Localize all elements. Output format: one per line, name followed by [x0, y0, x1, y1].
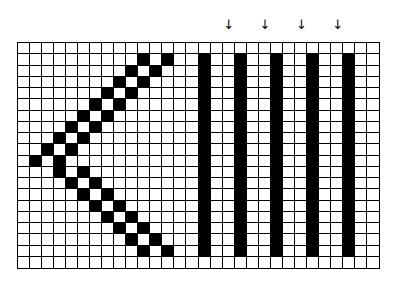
empty-cell: [90, 133, 102, 144]
filled-cell: [90, 122, 102, 133]
filled-cell: [138, 246, 150, 257]
filled-cell: [235, 122, 247, 133]
filled-cell: [66, 144, 78, 155]
empty-cell: [30, 111, 42, 122]
filled-cell: [343, 66, 355, 77]
empty-cell: [42, 111, 54, 122]
empty-cell: [211, 54, 223, 65]
empty-cell: [355, 212, 367, 223]
empty-cell: [138, 144, 150, 155]
filled-cell: [307, 144, 319, 155]
empty-cell: [18, 122, 30, 133]
empty-cell: [295, 257, 307, 268]
empty-cell: [211, 246, 223, 257]
empty-cell: [367, 111, 379, 122]
empty-cell: [259, 43, 271, 54]
empty-cell: [319, 246, 331, 257]
empty-cell: [247, 66, 259, 77]
empty-cell: [30, 257, 42, 268]
empty-cell: [235, 43, 247, 54]
empty-cell: [150, 43, 162, 54]
empty-cell: [150, 246, 162, 257]
empty-cell: [367, 156, 379, 167]
empty-cell: [295, 43, 307, 54]
empty-cell: [54, 88, 66, 99]
empty-cell: [259, 156, 271, 167]
empty-cell: [150, 77, 162, 88]
filled-cell: [271, 122, 283, 133]
empty-cell: [367, 133, 379, 144]
empty-cell: [66, 88, 78, 99]
empty-cell: [355, 122, 367, 133]
filled-cell: [54, 133, 66, 144]
empty-cell: [102, 257, 114, 268]
filled-cell: [235, 77, 247, 88]
empty-cell: [331, 99, 343, 110]
empty-cell: [331, 246, 343, 257]
empty-cell: [114, 246, 126, 257]
filled-cell: [66, 122, 78, 133]
empty-cell: [42, 167, 54, 178]
empty-cell: [54, 234, 66, 245]
filled-cell: [271, 234, 283, 245]
empty-cell: [114, 156, 126, 167]
empty-cell: [150, 201, 162, 212]
empty-cell: [150, 133, 162, 144]
empty-cell: [162, 43, 174, 54]
down-arrow-icon: ↓: [295, 18, 307, 32]
filled-cell: [307, 212, 319, 223]
filled-cell: [78, 111, 90, 122]
empty-cell: [283, 133, 295, 144]
filled-cell: [307, 189, 319, 200]
empty-cell: [42, 66, 54, 77]
filled-cell: [102, 111, 114, 122]
empty-cell: [78, 234, 90, 245]
empty-cell: [150, 122, 162, 133]
filled-cell: [199, 88, 211, 99]
empty-cell: [138, 212, 150, 223]
empty-cell: [319, 234, 331, 245]
empty-cell: [66, 201, 78, 212]
empty-cell: [66, 212, 78, 223]
empty-cell: [319, 201, 331, 212]
empty-cell: [283, 54, 295, 65]
empty-cell: [174, 201, 186, 212]
empty-cell: [283, 66, 295, 77]
empty-cell: [42, 133, 54, 144]
empty-cell: [126, 257, 138, 268]
empty-cell: [211, 212, 223, 223]
empty-cell: [150, 54, 162, 65]
filled-cell: [271, 144, 283, 155]
empty-cell: [78, 178, 90, 189]
empty-cell: [174, 111, 186, 122]
empty-cell: [295, 133, 307, 144]
filled-cell: [126, 66, 138, 77]
filled-cell: [343, 246, 355, 257]
empty-cell: [331, 88, 343, 99]
empty-cell: [78, 54, 90, 65]
empty-cell: [126, 167, 138, 178]
empty-cell: [90, 54, 102, 65]
empty-cell: [247, 201, 259, 212]
empty-cell: [150, 167, 162, 178]
empty-cell: [331, 223, 343, 234]
empty-cell: [367, 43, 379, 54]
empty-cell: [102, 77, 114, 88]
empty-cell: [211, 178, 223, 189]
empty-cell: [18, 133, 30, 144]
empty-cell: [211, 111, 223, 122]
empty-cell: [114, 66, 126, 77]
empty-cell: [18, 201, 30, 212]
empty-cell: [223, 66, 235, 77]
empty-cell: [126, 111, 138, 122]
empty-cell: [367, 167, 379, 178]
empty-cell: [259, 66, 271, 77]
empty-cell: [90, 111, 102, 122]
filled-cell: [126, 234, 138, 245]
empty-cell: [126, 156, 138, 167]
filled-cell: [162, 54, 174, 65]
down-arrow-icon: ↓: [223, 18, 235, 32]
filled-cell: [78, 133, 90, 144]
empty-cell: [223, 223, 235, 234]
empty-cell: [319, 212, 331, 223]
